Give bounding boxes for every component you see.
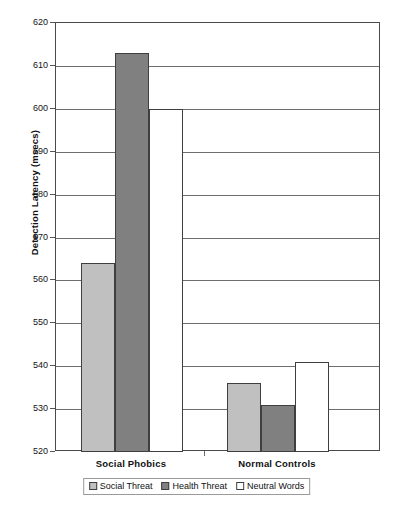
y-axis-tick-label: 590 xyxy=(8,146,48,156)
y-axis-tick-mark xyxy=(50,408,55,409)
y-axis-tick-mark xyxy=(50,194,55,195)
legend-item: Health Threat xyxy=(162,481,227,491)
y-axis-tick-label: 560 xyxy=(8,274,48,284)
y-axis-tick-label: 540 xyxy=(8,360,48,370)
y-axis-tick-label: 610 xyxy=(8,60,48,70)
bar xyxy=(227,383,261,452)
legend-label: Health Threat xyxy=(173,481,227,491)
bar-chart: Detection Latency (msecs) 62061060059058… xyxy=(0,0,393,506)
gridline xyxy=(56,238,379,239)
y-axis-tick-mark xyxy=(50,151,55,152)
legend-item: Neutral Words xyxy=(236,481,304,491)
y-axis-tick-label: 550 xyxy=(8,317,48,327)
gridline xyxy=(56,66,379,67)
y-axis-tick-mark xyxy=(50,65,55,66)
y-axis-tick-mark xyxy=(50,22,55,23)
y-axis-tick-label: 570 xyxy=(8,232,48,242)
gridline xyxy=(56,109,379,110)
bar xyxy=(81,263,115,452)
legend-label: Neutral Words xyxy=(247,481,304,491)
gridline xyxy=(56,195,379,196)
x-axis-group-separator-tick xyxy=(204,451,205,456)
y-axis-tick-label: 580 xyxy=(8,189,48,199)
legend-swatch-icon xyxy=(162,482,170,490)
y-axis-tick-mark xyxy=(50,322,55,323)
legend-swatch-icon xyxy=(89,482,97,490)
y-axis-tick-label: 620 xyxy=(8,17,48,27)
legend-swatch-icon xyxy=(236,482,244,490)
legend-item: Social Threat xyxy=(89,481,153,491)
y-axis-tick-mark xyxy=(50,108,55,109)
x-axis-category-label: Normal Controls xyxy=(238,458,315,469)
bar xyxy=(149,109,183,452)
y-axis-tick-mark xyxy=(50,451,55,452)
y-axis-tick-mark xyxy=(50,237,55,238)
y-axis-tick-label: 520 xyxy=(8,446,48,456)
y-axis-tick-label: 600 xyxy=(8,103,48,113)
legend: Social ThreatHealth ThreatNeutral Words xyxy=(83,478,311,495)
bar xyxy=(115,53,149,452)
bar xyxy=(261,405,295,452)
gridline xyxy=(56,152,379,153)
plot-area xyxy=(55,22,380,451)
legend-label: Social Threat xyxy=(100,481,153,491)
bar xyxy=(295,362,329,452)
y-axis-tick-mark xyxy=(50,365,55,366)
y-axis-tick-mark xyxy=(50,279,55,280)
y-axis-tick-label: 530 xyxy=(8,403,48,413)
x-axis-category-label: Social Phobics xyxy=(96,458,166,469)
